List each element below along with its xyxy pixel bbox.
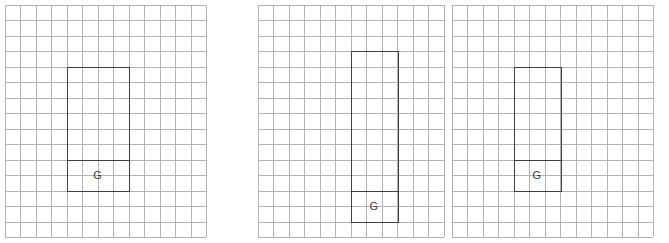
cell-label-g: G	[93, 169, 102, 181]
grid-panel-2: G	[257, 0, 455, 243]
grid-panel-3: G	[451, 0, 665, 243]
panel-canvas: G	[4, 0, 218, 242]
grid-lines	[452, 5, 654, 238]
figure-root: GGG	[0, 0, 669, 243]
grid-lines	[5, 5, 207, 238]
cell-label-g: G	[369, 200, 378, 212]
shape-outline-rect[interactable]	[352, 52, 399, 223]
grid-panel-1: G	[4, 0, 218, 243]
panel-canvas: G	[257, 0, 455, 242]
cell-label-g: G	[532, 169, 541, 181]
panel-canvas: G	[451, 0, 665, 242]
marked-shape[interactable]: G	[352, 52, 399, 223]
